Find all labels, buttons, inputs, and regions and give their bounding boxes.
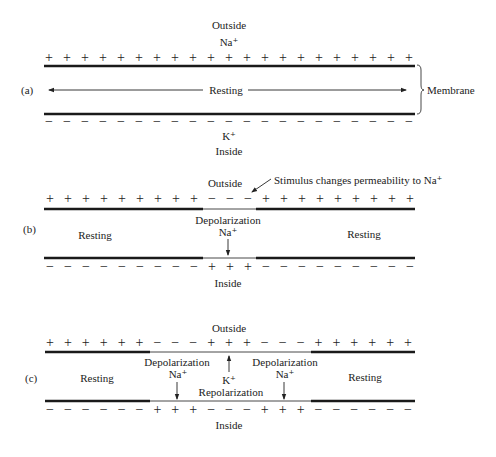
panel-c-right-na-ion: Na⁺: [276, 368, 295, 380]
positive-charge: +: [207, 50, 215, 65]
positive-charge: +: [261, 50, 269, 65]
positive-charge: +: [117, 50, 125, 65]
panel-a-outside-label: Outside: [212, 19, 246, 31]
panel-c-bottom-charges: −−−−−−+++−−−+++−−−−−−: [46, 402, 412, 417]
panel-a-outside-ion: Na⁺: [220, 36, 239, 48]
positive-charge: +: [315, 335, 323, 350]
negative-charge: −: [189, 335, 197, 350]
positive-charge: +: [154, 191, 162, 206]
positive-charge: +: [406, 191, 414, 206]
negative-charge: −: [118, 402, 126, 417]
negative-charge: −: [332, 402, 340, 417]
negative-charge: −: [351, 114, 359, 129]
positive-charge: +: [352, 191, 360, 206]
negative-charge: −: [352, 259, 360, 274]
negative-charge: −: [386, 402, 394, 417]
negative-charge: −: [153, 114, 161, 129]
negative-charge: −: [207, 402, 215, 417]
negative-charge: −: [64, 402, 72, 417]
positive-charge: +: [118, 191, 126, 206]
negative-charge: −: [226, 191, 234, 206]
positive-charge: +: [316, 191, 324, 206]
negative-charge: −: [405, 114, 413, 129]
panel-c-top-charges: ++++++−−−+++−−−++++++: [46, 335, 412, 350]
negative-charge: −: [369, 114, 377, 129]
positive-charge: +: [244, 259, 252, 274]
positive-charge: +: [171, 402, 179, 417]
negative-charge: −: [279, 114, 287, 129]
positive-charge: +: [136, 335, 144, 350]
positive-charge: +: [279, 50, 287, 65]
positive-charge: +: [118, 335, 126, 350]
negative-charge: −: [225, 114, 233, 129]
positive-charge: +: [243, 335, 251, 350]
negative-charge: −: [225, 402, 233, 417]
positive-charge: +: [351, 50, 359, 65]
positive-charge: +: [100, 335, 108, 350]
panel-b-left-resting-label: Resting: [78, 229, 112, 241]
negative-charge: −: [171, 114, 179, 129]
positive-charge: +: [153, 402, 161, 417]
negative-charge: −: [388, 259, 396, 274]
positive-charge: +: [405, 50, 413, 65]
negative-charge: −: [171, 335, 179, 350]
positive-charge: +: [46, 335, 54, 350]
negative-charge: −: [261, 114, 269, 129]
negative-charge: −: [262, 259, 270, 274]
positive-charge: +: [315, 50, 323, 65]
negative-charge: −: [81, 114, 89, 129]
panel-b-right-resting-label: Resting: [347, 228, 381, 240]
panel-c-label: (c): [25, 372, 38, 385]
positive-charge: +: [226, 259, 234, 274]
positive-charge: +: [135, 50, 143, 65]
negative-charge: −: [117, 114, 125, 129]
positive-charge: +: [153, 50, 161, 65]
negative-charge: −: [315, 114, 323, 129]
panel-a: Outside Na⁺ +++++++++++++++++++++ (a) Re…: [21, 19, 475, 157]
positive-charge: +: [225, 335, 233, 350]
positive-charge: +: [350, 335, 358, 350]
panel-c: Outside ++++++−−−+++−−−++++++ (c) Restin…: [25, 322, 415, 431]
negative-charge: −: [82, 259, 90, 274]
positive-charge: +: [45, 50, 53, 65]
positive-charge: +: [388, 191, 396, 206]
negative-charge: −: [387, 114, 395, 129]
positive-charge: +: [189, 50, 197, 65]
negative-charge: −: [135, 114, 143, 129]
panel-b-outside-label: Outside: [208, 177, 242, 189]
negative-charge: −: [45, 114, 53, 129]
positive-charge: +: [369, 50, 377, 65]
panel-c-right-depolarization-label: Depolarization: [252, 356, 318, 368]
negative-charge: −: [316, 259, 324, 274]
positive-charge: +: [404, 335, 412, 350]
positive-charge: +: [189, 402, 197, 417]
panel-c-left-depolarization-label: Depolarization: [144, 356, 210, 368]
positive-charge: +: [368, 335, 376, 350]
negative-charge: −: [404, 402, 412, 417]
negative-charge: −: [350, 402, 358, 417]
negative-charge: −: [243, 114, 251, 129]
positive-charge: +: [387, 50, 395, 65]
negative-charge: −: [280, 259, 288, 274]
negative-charge: −: [189, 114, 197, 129]
negative-charge: −: [46, 259, 54, 274]
positive-charge: +: [208, 259, 216, 274]
positive-charge: +: [243, 50, 251, 65]
panel-c-inside-label: Inside: [216, 419, 243, 431]
positive-charge: +: [298, 191, 306, 206]
positive-charge: +: [262, 191, 270, 206]
negative-charge: −: [208, 191, 216, 206]
positive-charge: +: [64, 335, 72, 350]
negative-charge: −: [406, 259, 414, 274]
negative-charge: −: [64, 259, 72, 274]
panel-c-left-na-ion: Na⁺: [169, 368, 188, 380]
negative-charge: −: [82, 402, 90, 417]
panel-b-label: (b): [23, 223, 36, 236]
positive-charge: +: [334, 191, 342, 206]
positive-charge: +: [82, 335, 90, 350]
panel-a-top-charges: +++++++++++++++++++++: [45, 50, 413, 65]
positive-charge: +: [332, 335, 340, 350]
panel-b: Outside Stimulus changes permeability to…: [23, 174, 443, 289]
positive-charge: +: [297, 50, 305, 65]
stimulus-label: Stimulus changes permeability to Na⁺: [274, 174, 443, 186]
